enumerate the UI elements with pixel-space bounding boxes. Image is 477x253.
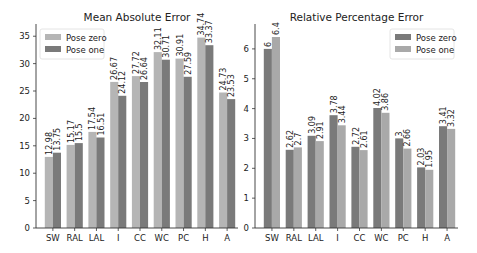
y-tick-label: 0 (25, 223, 30, 233)
legend-swatch (45, 46, 61, 52)
x-tick-label: H (202, 233, 208, 243)
bar-value-label: 26.64 (140, 57, 149, 80)
bar (110, 82, 118, 228)
bar-value-label: 6.4 (272, 22, 281, 35)
y-tick-label: 5 (244, 74, 249, 84)
bar (316, 141, 324, 228)
x-tick-label: A (224, 233, 230, 243)
bar-value-label: 2.61 (360, 130, 369, 148)
bar (447, 129, 455, 228)
legend-label: Pose one (416, 45, 454, 55)
bar (286, 150, 294, 228)
bar (45, 157, 53, 228)
chart-title: Mean Absolute Error (84, 11, 191, 23)
bar (403, 149, 411, 228)
y-tick-label: 15 (19, 141, 30, 151)
bar-value-label: 33.37 (205, 20, 214, 43)
bar-value-label: 15.5 (75, 123, 84, 141)
bar-value-label: 1.95 (425, 150, 434, 168)
bar-value-label: 16.51 (97, 113, 106, 136)
bar (132, 76, 140, 228)
x-tick-label: SW (265, 233, 279, 243)
bar (264, 49, 272, 228)
x-tick-label: I (117, 233, 120, 243)
mean-absolute-error-chart: Mean Absolute Error12.9813.75SW15.1715.5… (19, 11, 238, 243)
chart-title: Relative Percentage Error (290, 11, 424, 23)
y-tick-label: 30 (19, 59, 30, 69)
legend-label: Pose zero (66, 33, 107, 43)
bar-value-label: 3.44 (338, 105, 347, 123)
bar (360, 150, 368, 228)
bar-value-label: 6 (264, 42, 273, 47)
legend-swatch (395, 46, 411, 52)
bar (53, 153, 61, 228)
y-tick-label: 3 (244, 133, 249, 143)
x-tick-label: CC (354, 233, 366, 243)
bar-value-label: 27.59 (184, 52, 193, 75)
bar (197, 38, 205, 228)
bar (338, 125, 346, 228)
x-tick-label: LAL (308, 233, 324, 243)
bar (417, 167, 425, 228)
x-tick-label: SW (46, 233, 60, 243)
y-tick-label: 2 (244, 163, 249, 173)
bar (162, 60, 170, 228)
bar (395, 138, 403, 228)
y-tick-label: 20 (19, 113, 30, 123)
y-tick-label: 6 (244, 44, 249, 54)
bar-value-label: 3.86 (381, 93, 390, 111)
bar-value-label: 23.53 (227, 74, 236, 97)
bar (294, 147, 302, 228)
x-tick-label: RAL (286, 233, 302, 243)
bar-value-label: 3.32 (447, 109, 456, 127)
y-tick-label: 25 (19, 86, 30, 96)
bar (67, 145, 75, 228)
y-tick-label: 10 (19, 168, 30, 178)
bar (351, 147, 359, 228)
x-tick-label: WC (374, 233, 388, 243)
bar (219, 93, 227, 229)
legend-label: Pose zero (416, 33, 457, 43)
relative-percentage-error-chart: Relative Percentage Error66.4SW2.622.7RA… (244, 11, 458, 243)
x-tick-label: A (444, 233, 450, 243)
x-tick-label: PC (398, 233, 409, 243)
bar (118, 96, 126, 228)
bar (227, 99, 235, 228)
x-tick-label: RAL (67, 233, 83, 243)
legend-swatch (395, 34, 411, 40)
bar (425, 170, 433, 228)
bar (308, 136, 316, 228)
bar (75, 143, 83, 228)
x-tick-label: WC (155, 233, 169, 243)
bar (140, 82, 148, 228)
bar-value-label: 30.71 (162, 35, 171, 58)
legend-label: Pose one (66, 45, 104, 55)
y-tick-label: 5 (25, 196, 30, 206)
bar (96, 138, 104, 229)
y-tick-label: 35 (19, 31, 30, 41)
y-tick-label: 4 (244, 104, 249, 114)
bar (154, 52, 162, 228)
bar-value-label: 2.66 (403, 129, 412, 147)
x-tick-label: H (422, 233, 428, 243)
bar-value-label: 2.7 (294, 133, 303, 146)
figure: Mean Absolute Error12.9813.75SW15.1715.5… (0, 0, 477, 253)
y-tick-label: 0 (244, 223, 249, 233)
bar (381, 113, 389, 228)
bar (439, 126, 447, 228)
bar (205, 45, 213, 228)
x-tick-label: I (336, 233, 339, 243)
bar (373, 108, 381, 228)
bar-value-label: 2.91 (316, 121, 325, 139)
y-tick-label: 1 (244, 193, 249, 203)
bar (176, 59, 184, 228)
bar-value-label: 24.12 (118, 71, 127, 94)
bar (88, 132, 96, 228)
x-tick-label: LAL (89, 233, 105, 243)
bar (272, 37, 280, 228)
bar (184, 77, 192, 228)
legend-swatch (45, 34, 61, 40)
x-tick-label: CC (134, 233, 146, 243)
bar (330, 115, 338, 228)
bar-value-label: 13.75 (53, 128, 62, 151)
